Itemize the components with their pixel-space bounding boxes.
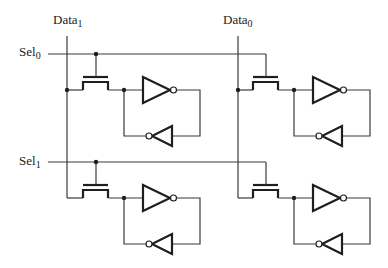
pass-transistor-icon <box>83 82 108 90</box>
inverter-feedback-icon <box>152 234 172 254</box>
pass-transistor-icon <box>253 82 278 90</box>
inverter-feedback-icon <box>152 126 172 146</box>
storage-node-junction-dot <box>122 88 126 92</box>
data1-label-subscript: 1 <box>78 18 83 29</box>
gate-junction-dot <box>94 160 98 164</box>
inverter-bubble-icon <box>171 87 177 93</box>
gate-junction-dot <box>94 52 98 56</box>
inverter-bubble-icon <box>146 133 152 139</box>
inverter-bubble-icon <box>341 87 347 93</box>
sram-circuit-diagram: Data1 Data0 Sel0 Sel1 <box>0 0 388 268</box>
data0-label: Data0 <box>223 13 253 29</box>
data-junction-dot <box>65 88 69 92</box>
inverter-forward-icon <box>313 77 340 103</box>
inverter-feedback-icon <box>322 234 342 254</box>
inverter-bubble-icon <box>341 195 347 201</box>
data1-label: Data1 <box>53 13 83 29</box>
inverter-bubble-icon <box>316 133 322 139</box>
inverter-feedback-icon <box>322 126 342 146</box>
data0-label-text: Data <box>223 12 248 27</box>
storage-node-junction-dot <box>292 88 296 92</box>
feedback-wire <box>342 198 370 244</box>
data0-label-subscript: 0 <box>248 18 253 29</box>
sel0-label-text: Sel <box>19 44 36 59</box>
inverter-bubble-icon <box>146 241 152 247</box>
inverter-forward-icon <box>143 185 170 211</box>
sel0-label-subscript: 0 <box>36 50 41 61</box>
data1-label-text: Data <box>53 12 78 27</box>
feedback-wire <box>342 90 370 136</box>
circuit-schematic <box>0 0 388 268</box>
pass-transistor-icon <box>83 190 108 198</box>
inverter-forward-icon <box>313 185 340 211</box>
sel0-label: Sel0 <box>19 45 41 61</box>
sel1-label-text: Sel <box>19 153 36 168</box>
sel1-label: Sel1 <box>19 154 41 170</box>
inverter-bubble-icon <box>171 195 177 201</box>
storage-node-junction-dot <box>292 196 296 200</box>
feedback-wire <box>172 198 200 244</box>
storage-node-junction-dot <box>122 196 126 200</box>
sel1-label-subscript: 1 <box>36 159 41 170</box>
inverter-bubble-icon <box>316 241 322 247</box>
pass-transistor-icon <box>253 190 278 198</box>
data-junction-dot <box>236 88 240 92</box>
feedback-wire <box>172 90 200 136</box>
inverter-forward-icon <box>143 77 170 103</box>
